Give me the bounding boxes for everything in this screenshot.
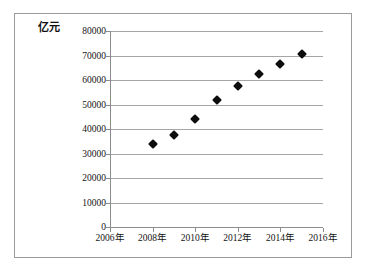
x-axis-tick-mark	[110, 228, 111, 232]
x-axis-tick-mark	[323, 228, 324, 232]
x-axis-tick-mark	[153, 228, 154, 232]
gridline	[110, 129, 323, 130]
gridline	[110, 154, 323, 155]
y-axis-tick-mark	[106, 105, 110, 106]
y-axis-tick-label: 70000	[50, 51, 106, 61]
y-axis-tick-label: 40000	[50, 124, 106, 134]
chart-figure: 亿元 8000070000600005000040000300002000010…	[0, 0, 365, 273]
y-axis-tick-mark	[106, 154, 110, 155]
data-point-marker	[148, 139, 158, 149]
y-axis-tick-mark	[106, 56, 110, 57]
gridline	[110, 31, 323, 32]
x-axis-tick-mark	[238, 228, 239, 232]
x-axis-tick-label: 2016年	[296, 233, 350, 244]
y-axis-line	[110, 31, 111, 228]
data-point-marker	[169, 130, 179, 140]
y-axis-tick-label: 0	[50, 222, 106, 232]
x-axis-tick-mark	[195, 228, 196, 232]
data-point-marker	[297, 49, 307, 59]
data-point-marker	[190, 114, 200, 124]
y-axis-tick-mark	[106, 203, 110, 204]
y-axis-tick-mark	[106, 129, 110, 130]
y-axis-tick-label: 80000	[50, 26, 106, 36]
gridline	[110, 203, 323, 204]
plot-area	[110, 31, 323, 227]
y-axis-tick-label: 20000	[50, 173, 106, 183]
y-axis-tick-mark	[106, 31, 110, 32]
y-axis-tick-label: 60000	[50, 75, 106, 85]
y-axis-tick-label: 50000	[50, 100, 106, 110]
data-point-marker	[212, 95, 222, 105]
gridline	[110, 80, 323, 81]
gridline	[110, 56, 323, 57]
y-axis-tick-label: 30000	[50, 149, 106, 159]
data-point-marker	[233, 81, 243, 91]
y-axis-tick-mark	[106, 80, 110, 81]
x-axis-line	[110, 227, 323, 228]
x-axis-tick-mark	[280, 228, 281, 232]
data-point-marker	[254, 69, 264, 79]
y-axis-tick-mark	[106, 178, 110, 179]
y-axis-tick-label: 10000	[50, 198, 106, 208]
data-point-marker	[275, 59, 285, 69]
gridline	[110, 178, 323, 179]
